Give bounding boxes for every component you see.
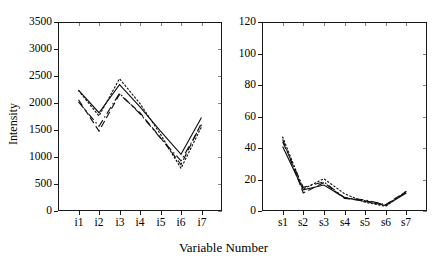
x-tick-mark-mirror <box>345 22 346 26</box>
y-tick-label: 1500 <box>0 124 52 136</box>
y-tick-mark-mirror <box>423 148 427 149</box>
x-tick-mark <box>161 211 162 215</box>
x-tick-mark <box>99 211 100 215</box>
x-tick-mark-mirror <box>161 22 162 26</box>
y-tick-mark-mirror <box>423 180 427 181</box>
x-tick-mark <box>406 211 407 215</box>
series-line-solid <box>283 146 407 205</box>
y-tick-mark <box>258 180 262 181</box>
y-tick-label: 80 <box>202 79 256 91</box>
y-tick-mark <box>258 211 262 212</box>
figure-root: Intensity Variable Number 05001000150020… <box>0 0 447 262</box>
y-tick-label: 2500 <box>0 70 52 82</box>
x-tick-mark-mirror <box>406 22 407 26</box>
y-tick-mark <box>258 117 262 118</box>
x-tick-mark <box>386 211 387 215</box>
y-tick-label: 500 <box>0 178 52 190</box>
y-tick-mark-mirror <box>423 211 427 212</box>
x-tick-mark <box>283 211 284 215</box>
y-tick-mark <box>54 157 58 158</box>
y-tick-label: 0 <box>0 205 52 217</box>
y-tick-mark-mirror <box>423 22 427 23</box>
x-tick-mark <box>181 211 182 215</box>
y-tick-label: 20 <box>202 174 256 186</box>
x-tick-mark-mirror <box>386 22 387 26</box>
y-tick-mark <box>258 54 262 55</box>
x-tick-label: s7 <box>386 217 426 229</box>
x-tick-label: i7 <box>182 217 222 229</box>
x-tick-mark-mirror <box>79 22 80 26</box>
x-axis-title: Variable Number <box>0 240 447 256</box>
y-tick-label: 60 <box>202 111 256 123</box>
series-line-dotted <box>283 137 407 206</box>
y-tick-mark <box>54 76 58 77</box>
y-tick-mark <box>258 85 262 86</box>
x-tick-mark <box>365 211 366 215</box>
y-tick-mark <box>54 211 58 212</box>
x-tick-mark <box>303 211 304 215</box>
y-tick-mark-mirror <box>218 103 222 104</box>
y-tick-label: 40 <box>202 142 256 154</box>
x-tick-mark-mirror <box>120 22 121 26</box>
x-tick-mark-mirror <box>140 22 141 26</box>
x-tick-mark <box>324 211 325 215</box>
x-tick-mark <box>79 211 80 215</box>
x-tick-mark <box>140 211 141 215</box>
x-tick-mark-mirror <box>181 22 182 26</box>
y-tick-mark-mirror <box>218 157 222 158</box>
x-tick-mark-mirror <box>303 22 304 26</box>
x-tick-mark <box>345 211 346 215</box>
y-tick-mark <box>258 148 262 149</box>
y-tick-mark-mirror <box>423 117 427 118</box>
y-tick-label: 100 <box>202 48 256 60</box>
y-tick-mark <box>54 184 58 185</box>
y-tick-mark <box>258 22 262 23</box>
y-tick-label: 3000 <box>0 43 52 55</box>
y-tick-label: 1000 <box>0 151 52 163</box>
y-tick-label: 120 <box>202 16 256 28</box>
x-tick-mark-mirror <box>324 22 325 26</box>
y-tick-label: 3500 <box>0 16 52 28</box>
x-tick-mark-mirror <box>365 22 366 26</box>
x-tick-mark-mirror <box>99 22 100 26</box>
y-tick-mark-mirror <box>218 76 222 77</box>
series-line-dashed <box>283 139 407 204</box>
y-tick-mark-mirror <box>423 54 427 55</box>
y-tick-mark <box>54 49 58 50</box>
y-tick-mark <box>54 103 58 104</box>
series-line-dashdot <box>283 142 407 205</box>
y-tick-label: 0 <box>202 205 256 217</box>
y-tick-mark-mirror <box>218 130 222 131</box>
y-tick-mark <box>54 130 58 131</box>
x-tick-mark-mirror <box>283 22 284 26</box>
y-tick-mark <box>54 22 58 23</box>
y-tick-mark-mirror <box>423 85 427 86</box>
y-tick-label: 2000 <box>0 97 52 109</box>
x-tick-mark <box>120 211 121 215</box>
